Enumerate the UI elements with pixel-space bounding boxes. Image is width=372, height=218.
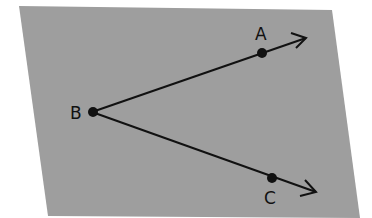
diagram-canvas: A B C: [0, 0, 372, 218]
label-b: B: [70, 103, 82, 123]
point-b: [88, 107, 98, 117]
label-c: C: [264, 188, 276, 208]
point-c: [267, 173, 277, 183]
label-a: A: [255, 24, 267, 44]
point-a: [257, 48, 267, 58]
angle-diagram: A B C: [0, 0, 372, 218]
